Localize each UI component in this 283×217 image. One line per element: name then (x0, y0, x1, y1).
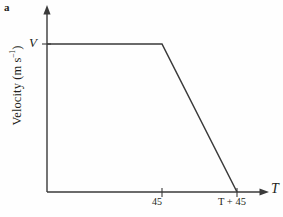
x-tick-label-45: 45 (152, 196, 162, 207)
x-axis-title: T (271, 181, 279, 197)
y-axis-title: Velocity (m s–1) (10, 26, 25, 146)
velocity-time-trace (47, 44, 237, 192)
velocity-time-graph-figure: a V 45 T + 45 T Velocity (m s–1) (0, 0, 283, 217)
y-axis-value-label-V: V (29, 35, 37, 51)
y-axis-arrowhead (43, 5, 50, 15)
plot-area-svg (0, 0, 283, 217)
y-axis-title-exponent: –1 (8, 50, 17, 58)
y-axis (43, 5, 50, 192)
x-axis-arrowhead (260, 189, 270, 196)
y-axis-title-close: ) (10, 46, 24, 50)
y-axis-title-base: Velocity (m s (10, 58, 24, 126)
x-tick-label-T-plus-45: T + 45 (218, 196, 246, 207)
